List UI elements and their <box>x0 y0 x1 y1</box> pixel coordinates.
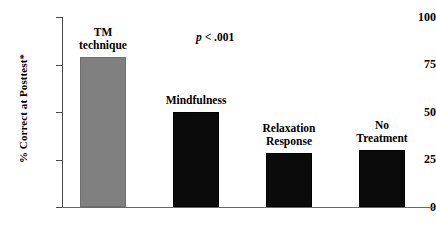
bar-label-line1: No <box>375 119 389 131</box>
bar-label-no-treatment: No Treatment <box>356 119 407 146</box>
bar-chart: % Correct at Posttest* 100 75 50 25 0 TM… <box>0 0 436 225</box>
bar-group-relaxation-response: Relaxation Response <box>266 17 312 207</box>
bar-label-relaxation-response: Relaxation Response <box>262 122 315 149</box>
bar-label-line2: Response <box>266 135 312 147</box>
p-value-rest: < .001 <box>202 31 234 43</box>
bar-tm-technique <box>80 57 126 207</box>
bar-label-line1: TM <box>94 26 113 38</box>
bar-label-line1: Relaxation <box>262 122 315 134</box>
bar-group-no-treatment: No Treatment <box>359 17 405 207</box>
y-axis-title: % Correct at Posttest* <box>18 24 29 194</box>
plot-area: TM technique Mindfulness Relaxation Resp… <box>63 17 434 207</box>
bar-no-treatment <box>359 150 405 207</box>
bar-mindfulness <box>173 112 219 207</box>
bar-label-tm-technique: TM technique <box>79 26 127 53</box>
p-value-annotation: p < .001 <box>196 32 234 44</box>
bar-relaxation-response <box>266 153 312 207</box>
bar-label-line2: technique <box>79 39 127 51</box>
bar-label-line2: Treatment <box>356 132 407 144</box>
bar-label-mindfulness: Mindfulness <box>166 94 227 108</box>
x-axis-line <box>62 207 434 208</box>
bar-label-line1: Mindfulness <box>166 94 227 106</box>
bar-group-tm-technique: TM technique <box>80 17 126 207</box>
bar-group-mindfulness: Mindfulness <box>173 17 219 207</box>
